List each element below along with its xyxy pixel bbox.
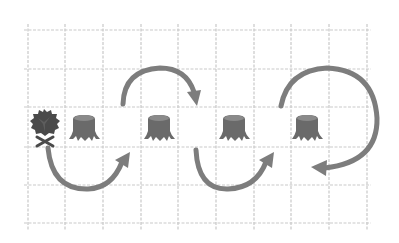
arrow-hop-1 bbox=[48, 148, 130, 189]
tree-icon bbox=[30, 109, 60, 146]
arrow-hop-3 bbox=[196, 150, 274, 189]
stump-icon bbox=[69, 115, 100, 141]
jump-diagram bbox=[0, 0, 399, 243]
stump-icon bbox=[219, 115, 250, 141]
stump-icon bbox=[144, 115, 175, 141]
arrow-hop-2 bbox=[123, 68, 201, 106]
stump-icon bbox=[292, 115, 323, 141]
